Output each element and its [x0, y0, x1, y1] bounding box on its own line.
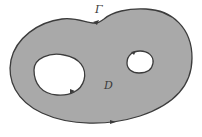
region-diagram: Γ D — [0, 0, 202, 137]
boundary-label-gamma: Γ — [95, 3, 103, 16]
diagram-canvas — [0, 0, 202, 137]
region-label-d: D — [104, 79, 113, 92]
region-d-shape — [10, 9, 192, 123]
